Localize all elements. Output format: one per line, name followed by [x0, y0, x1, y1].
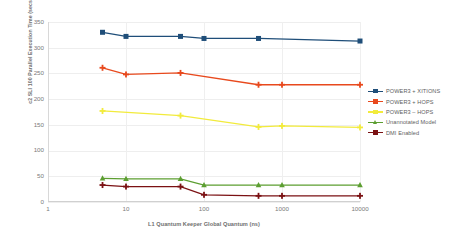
data-point-plus [279, 82, 285, 88]
legend-swatch-icon [368, 118, 383, 127]
data-point-plus [100, 108, 106, 114]
y-tick-label: 0 [18, 199, 44, 205]
legend-item[interactable]: POWER3 + HOPS [368, 96, 469, 106]
x-tick-label: 10 [123, 205, 130, 212]
data-point-plus [357, 82, 363, 88]
data-point-plus [201, 192, 207, 198]
legend-label: Unannotated Model [386, 119, 436, 125]
y-tick-label: 200 [18, 96, 44, 102]
data-point-plus [279, 193, 285, 199]
data-point-plus [256, 82, 262, 88]
series-line [103, 68, 360, 85]
series-layer [48, 22, 360, 202]
gridline-vertical [360, 22, 361, 202]
data-point-square [178, 34, 183, 39]
data-point-plus [123, 184, 129, 190]
x-axis-tick-labels: 110100100010000 [48, 205, 360, 217]
y-axis-tick-labels: 350300250200150100500 [14, 0, 44, 241]
data-point-plus [256, 193, 262, 199]
data-point-plus [123, 71, 129, 77]
legend-item[interactable]: POWER3 – HOPS [368, 107, 469, 117]
data-point-square [100, 30, 105, 35]
data-point-plus [279, 123, 285, 129]
data-point-plus [100, 65, 106, 71]
chart-container: c2 SLI 100 Parallel Execution Time (secs… [0, 0, 469, 241]
data-point-plus [178, 70, 184, 76]
legend-swatch-icon [368, 97, 383, 106]
legend-label: POWER3 – HOPS [386, 109, 433, 115]
legend-item[interactable]: POWER3 + XITIONS [368, 86, 469, 96]
x-tick-label: 1 [46, 205, 49, 212]
series-line [103, 111, 360, 127]
data-point-plus [178, 184, 184, 190]
series-line [103, 185, 360, 196]
data-point-plus [178, 113, 184, 119]
x-tick-label: 1000 [275, 205, 289, 212]
chart-legend: POWER3 + XITIONSPOWER3 + HOPSPOWER3 – HO… [368, 86, 469, 138]
x-tick-label: 10000 [351, 205, 368, 212]
data-point-plus [256, 124, 262, 130]
y-tick-label: 350 [18, 19, 44, 25]
plot-area [48, 22, 360, 202]
legend-label: POWER3 + XITIONS [386, 88, 440, 94]
legend-item[interactable]: DMI Enabled [368, 128, 469, 138]
x-axis-title: L1 Quantum Keeper Global Quantum (ns) [48, 221, 360, 227]
series-line [103, 178, 360, 185]
y-tick-label: 250 [18, 70, 44, 76]
data-point-plus [100, 182, 106, 188]
y-tick-label: 50 [18, 173, 44, 179]
legend-label: POWER3 + HOPS [386, 99, 434, 105]
y-tick-label: 300 [18, 45, 44, 51]
legend-swatch-icon [368, 128, 383, 137]
legend-label: DMI Enabled [386, 130, 419, 136]
series-line [103, 32, 360, 41]
data-point-square [124, 34, 129, 39]
y-tick-label: 150 [18, 122, 44, 128]
data-point-plus [357, 124, 363, 130]
x-tick-label: 100 [199, 205, 209, 212]
gridline-horizontal [48, 202, 360, 203]
y-tick-label: 100 [18, 147, 44, 153]
data-point-square [358, 39, 363, 44]
legend-item[interactable]: Unannotated Model [368, 117, 469, 127]
data-point-square [256, 36, 261, 41]
legend-swatch-icon [368, 87, 383, 96]
data-point-plus [357, 193, 363, 199]
data-point-square [202, 36, 207, 41]
legend-swatch-icon [368, 107, 383, 116]
